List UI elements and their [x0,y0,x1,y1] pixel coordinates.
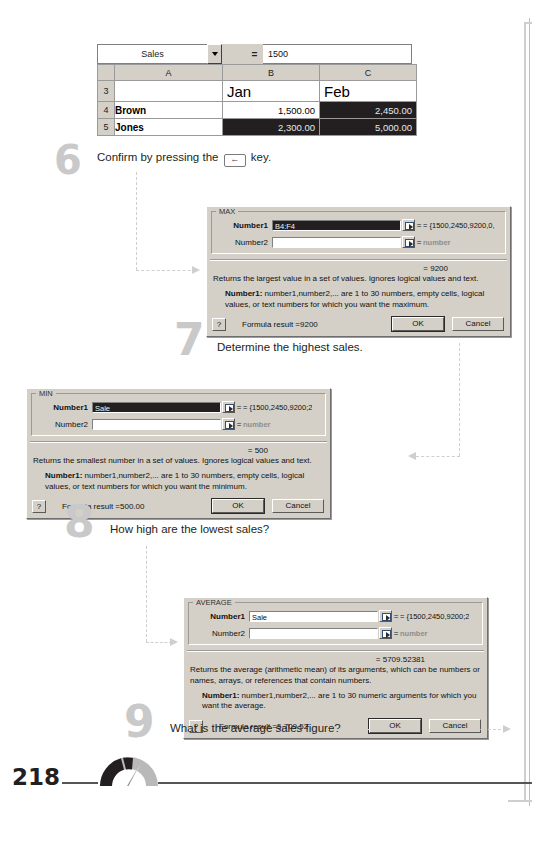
table-row: 4 Brown 1,500.00 2,450.00 [98,102,417,119]
cell-b5[interactable]: 2,300.00 [223,119,320,136]
max-function-dialog[interactable]: MAX Number1 B4:F4 = = {1500,2450,9200,0,… [206,206,511,337]
corner-cell[interactable] [98,65,115,81]
footer-rule-left [62,782,98,784]
average-cancel-button[interactable]: Cancel [429,719,481,733]
help-icon[interactable]: ? [32,500,46,513]
max-description: Returns the largest value in a set of va… [207,273,510,285]
max-number2-collapse-icon[interactable] [402,236,415,248]
page-border-right-inner [529,18,530,806]
gauge-icon [96,757,162,787]
column-header-c[interactable]: C [320,65,417,81]
max-ok-button[interactable]: OK [392,317,444,331]
max-dialog-title: MAX [216,207,238,216]
formula-bar-input[interactable]: 1500 [263,44,412,64]
average-number1-collapse-icon[interactable] [379,610,392,622]
average-number2-preview: = number [392,629,478,638]
connector-arrow-7 [408,452,416,460]
step-number-6: 6 [54,140,82,180]
average-argument-text: number1,number2,... are 1 to 30 numeric … [202,691,476,711]
min-ok-button[interactable]: OK [212,499,264,513]
column-header-a[interactable]: A [115,65,223,81]
min-number1-collapse-icon[interactable] [222,401,235,413]
max-argument-name: Number1: [225,289,262,298]
min-number2-label: Number2 [36,420,92,429]
max-number2-input[interactable] [272,237,401,248]
max-cancel-button[interactable]: Cancel [452,317,504,331]
row-header-4[interactable]: 4 [98,102,115,119]
page-border-top-stub [524,22,532,24]
average-number2-value-preview: number [400,629,428,638]
spreadsheet-screenshot: Sales = 1500 A B C 3 Jan Feb [97,44,412,136]
cell-a4[interactable]: Brown [115,102,223,119]
page-border-right [524,22,526,802]
connector-arrow-9 [503,725,511,733]
column-header-b[interactable]: B [223,65,320,81]
average-arguments-group: AVERAGE Number1 Sale = = {1500,2450,9200… [188,602,483,645]
max-number1-label: Number1 [216,221,272,230]
name-box-value: Sales [141,49,164,59]
equals-sign: = [235,403,243,412]
cell-c5[interactable]: 5,000.00 [320,119,417,136]
average-number1-value-preview: = {1500,2450,9200;2 [400,612,469,621]
chevron-down-icon [212,52,218,56]
max-number2-value-preview: number [423,238,451,247]
book-page: Sales = 1500 A B C 3 Jan Feb [0,0,542,849]
average-number1-row: Number1 Sale = = {1500,2450,9200;2 [193,610,478,622]
cell-c3[interactable]: Feb [320,81,417,102]
row-header-5[interactable]: 5 [98,119,115,136]
footer-rule-right [158,782,532,784]
min-result-line: = 500 [27,443,330,455]
max-argument-text: number1,number2,... are 1 to 30 numbers,… [225,289,484,309]
average-argument-name: Number1: [202,691,239,700]
connector-line-9-horizontal [326,729,506,730]
min-number2-input[interactable] [92,419,221,430]
connector-line-8-vertical [146,546,147,642]
average-function-dialog[interactable]: AVERAGE Number1 Sale = = {1500,2450,9200… [183,597,488,739]
equals-button[interactable]: = [246,44,263,64]
average-ok-button[interactable]: OK [369,719,421,733]
table-row: 5 Jones 2,300.00 5,000.00 [98,119,417,136]
min-number1-input[interactable]: Sale [92,402,221,413]
max-number1-input[interactable]: B4:F4 [272,220,401,231]
step-6-text-before: Confirm by pressing the [97,151,218,163]
connector-line-7-vertical [459,343,460,456]
average-number2-collapse-icon[interactable] [379,627,392,639]
help-icon[interactable]: ? [212,318,226,331]
row-header-3[interactable]: 3 [98,81,115,102]
average-number2-input[interactable] [249,628,378,639]
connector-line-6-horizontal [136,270,196,271]
spreadsheet-grid: A B C 3 Jan Feb 4 Brown 1,500.00 2,450.0… [97,64,417,136]
name-box-dropdown-button[interactable] [207,44,222,64]
name-box[interactable]: Sales [97,44,207,64]
step-number-7: 7 [174,318,205,362]
cell-b4[interactable]: 1,500.00 [223,102,320,119]
cell-a3[interactable] [115,81,223,102]
average-number1-input[interactable]: Sale [249,611,378,622]
step-number-9: 9 [124,700,155,744]
max-number2-label: Number2 [216,238,272,247]
cell-b3[interactable]: Jan [223,81,320,102]
min-dialog-title: MIN [36,389,56,398]
min-number2-value-preview: number [243,420,271,429]
max-dialog-footer: ? Formula result =9200 OK Cancel [207,313,510,336]
connector-line-6-vertical [136,172,137,270]
average-number1-preview: = = {1500,2450,9200;2 [392,612,478,621]
max-number2-preview: = number [415,238,501,247]
max-argument-description: Number1: number1,number2,... are 1 to 30… [207,285,510,311]
cell-c4[interactable]: 2,450.00 [320,102,417,119]
min-number1-value-preview: = {1500,2450,9200;2 [243,403,312,412]
toolbar-gap [222,44,246,64]
step-8-caption: How high are the lowest sales? [110,523,269,535]
equals-sign: = [392,612,400,621]
max-number1-collapse-icon[interactable] [402,219,415,231]
average-description: Returns the average (arithmetic mean) of… [184,664,487,687]
min-number2-collapse-icon[interactable] [222,418,235,430]
step-number-8: 8 [64,500,95,544]
page-number: 218 [12,764,60,790]
cell-a5[interactable]: Jones [115,119,223,136]
average-result-line: = 5709.52381 [184,652,487,664]
average-button-row: OK Cancel [369,719,481,733]
min-cancel-button[interactable]: Cancel [272,499,324,513]
max-number1-row: Number1 B4:F4 = = {1500,2450,9200,0, [216,219,501,231]
min-description: Returns the smallest number in a set of … [27,455,330,467]
